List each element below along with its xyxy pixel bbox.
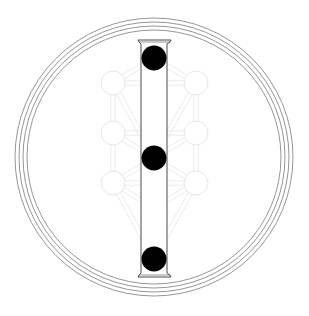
sephirah-keter-filled — [142, 46, 167, 71]
sephirah-chokmah-outline — [184, 71, 208, 95]
sephirah-hod-outline — [101, 171, 125, 195]
tree-of-life-diagram — [0, 0, 309, 316]
diagram-svg — [0, 0, 309, 316]
sephirah-gevurah-outline — [101, 121, 125, 145]
sephirah-netzach-outline — [184, 171, 208, 195]
sephirah-malkuth-filled — [142, 247, 167, 272]
sephirah-chesed-outline — [184, 121, 208, 145]
sephirah-tiferet-filled — [142, 146, 167, 171]
sephirah-binah-outline — [101, 71, 125, 95]
